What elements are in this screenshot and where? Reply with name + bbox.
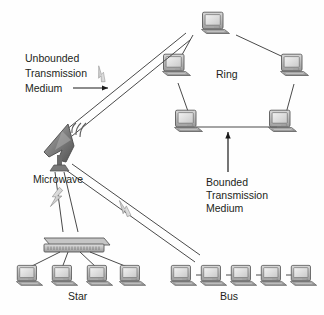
- ring-node-left[interactable]: [163, 54, 191, 75]
- bus-node-1[interactable]: [170, 265, 196, 285]
- unbounded-label-line1: Unbounded: [25, 52, 79, 64]
- lightning-bolt-icon-bus: [114, 201, 134, 218]
- network-topology-diagram: Ring Bounded Transmission Medium Unbound…: [0, 0, 324, 315]
- star-label: Star: [68, 290, 88, 302]
- bus-node-5[interactable]: [290, 265, 316, 285]
- bus-label: Bus: [220, 290, 238, 302]
- star-node-4[interactable]: [119, 265, 145, 285]
- unbounded-label-line3: Medium: [25, 82, 63, 94]
- microwave-device[interactable]: Microwave: [33, 123, 86, 185]
- wireless-link-microwave-ring: [66, 33, 190, 136]
- microwave-label: Microwave: [33, 173, 83, 185]
- star-node-2[interactable]: [51, 265, 77, 285]
- bounded-medium-annotation: Bounded Transmission Medium: [206, 132, 268, 214]
- bus-topology: Bus: [170, 265, 316, 302]
- ring-node-bottom-left[interactable]: [175, 110, 203, 131]
- dish-base: [50, 165, 69, 171]
- bounded-label-line3: Medium: [206, 202, 244, 214]
- star-links: [28, 252, 130, 268]
- unbounded-medium-annotation: Unbounded Transmission Medium: [25, 52, 108, 94]
- ring-node-bottom-right[interactable]: [269, 110, 297, 131]
- star-topology: Star: [16, 238, 145, 302]
- ring-node-top[interactable]: [202, 12, 230, 33]
- unbounded-label-line2: Transmission: [25, 67, 87, 79]
- bus-node-2[interactable]: [200, 265, 226, 285]
- lightning-bolt-icon-star: [50, 186, 63, 207]
- beam-edge-ring-a: [66, 33, 186, 130]
- star-node-1[interactable]: [16, 265, 42, 285]
- ring-label: Ring: [216, 68, 238, 80]
- ring-node-right[interactable]: [281, 54, 309, 75]
- lightning-bolt-icon-ring: [93, 66, 110, 84]
- bounded-label-line1: Bounded: [206, 176, 248, 188]
- hub-front-face: [44, 244, 104, 252]
- dish-mast: [57, 155, 62, 165]
- star-node-3[interactable]: [86, 265, 112, 285]
- bounded-label-line2: Transmission: [206, 189, 268, 201]
- diagram-canvas: Ring Bounded Transmission Medium Unbound…: [0, 0, 324, 315]
- ring-topology: Ring: [163, 12, 309, 131]
- bus-node-3[interactable]: [230, 265, 256, 285]
- star-hub[interactable]: [44, 238, 110, 252]
- bus-node-4[interactable]: [260, 265, 286, 285]
